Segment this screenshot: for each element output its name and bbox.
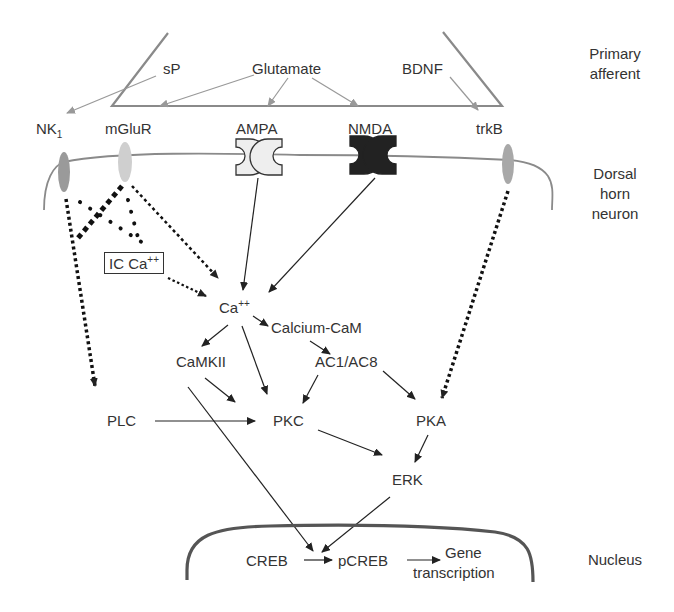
dotted-pathways bbox=[66, 186, 508, 398]
ic-ca-box: IC Ca++ bbox=[104, 252, 164, 274]
gene-label: Gene bbox=[445, 545, 482, 560]
nk1-label: NK1 bbox=[36, 121, 62, 140]
camkii-node: CaMKII bbox=[176, 354, 226, 369]
ca-node: Ca++ bbox=[219, 299, 250, 315]
transcription-label: transcription bbox=[413, 565, 495, 580]
bdnf-label: BDNF bbox=[402, 61, 443, 76]
mglur-label: mGluR bbox=[105, 121, 152, 136]
pka-node: PKA bbox=[416, 413, 446, 428]
ampa-channel-icon bbox=[236, 139, 282, 175]
ligand-arrows bbox=[67, 75, 478, 113]
primary-afferent-label: Primary afferent bbox=[570, 44, 660, 84]
trkb-label: trkB bbox=[476, 121, 503, 136]
ampa-label: AMPA bbox=[236, 121, 277, 136]
pkc-node: PKC bbox=[273, 413, 304, 428]
trkb-receptor-icon bbox=[502, 144, 514, 184]
mglur-receptor-icon bbox=[118, 142, 132, 182]
nk1-receptor-icon bbox=[58, 152, 70, 192]
erk-node: ERK bbox=[392, 472, 423, 487]
creb-node: CREB bbox=[246, 553, 288, 568]
sp-label: sP bbox=[163, 61, 181, 76]
pathway-diagram bbox=[0, 0, 674, 612]
plc-node: PLC bbox=[107, 413, 136, 428]
glutamate-label: Glutamate bbox=[252, 61, 321, 76]
nmda-label: NMDA bbox=[348, 121, 392, 136]
ac1-ac8-node: AC1/AC8 bbox=[315, 354, 378, 369]
dorsal-horn-neuron-label: Dorsal horn neuron bbox=[570, 164, 660, 224]
pcreb-node: pCREB bbox=[338, 553, 388, 568]
calcium-cam-node: Calcium-CaM bbox=[271, 320, 362, 335]
nucleus-label: Nucleus bbox=[565, 550, 665, 570]
